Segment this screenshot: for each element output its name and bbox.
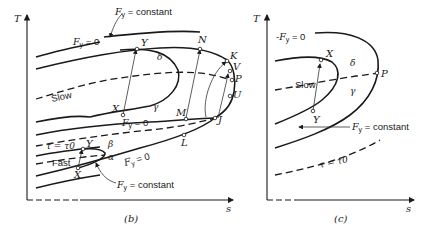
tau-label-c: τ = τ0 <box>318 154 349 170</box>
label-k: K <box>229 50 238 61</box>
slow-label-b: Slow <box>50 89 73 104</box>
region-gamma-b: γ <box>153 102 159 112</box>
label-x-small: X <box>73 169 82 180</box>
label-p-b: P <box>234 73 242 84</box>
region-delta-b: δ <box>157 52 162 62</box>
region-gamma-c: γ <box>350 86 356 96</box>
point-u <box>228 94 232 98</box>
point-p-b <box>230 78 234 82</box>
fy-const-bottom-arrow <box>96 163 116 183</box>
point-j <box>213 116 217 120</box>
label-l: L <box>180 137 188 148</box>
figure-c: T s (c) -Fy = 0 Slow X Y P δ γ Fy = cons… <box>253 13 414 224</box>
s-axis-label-c: s <box>406 203 411 214</box>
bottom-line-b <box>36 175 100 188</box>
point-y-c <box>311 109 315 113</box>
slow-label-c: Slow <box>295 79 316 90</box>
s-axis-label-b: s <box>226 203 231 214</box>
point-y-b <box>135 47 139 51</box>
point-x-c <box>319 58 323 62</box>
label-j: J <box>216 114 223 125</box>
fy-zero-top-curve <box>104 31 200 37</box>
label-x-c: X <box>325 48 334 59</box>
label-m: M <box>175 107 187 118</box>
label-n: N <box>197 34 208 45</box>
label-u: U <box>233 89 242 100</box>
region-beta: β <box>107 139 113 149</box>
tau-label-b: τ = τ0 <box>46 141 75 151</box>
point-p-c <box>375 71 379 75</box>
t-axis-label-b: T <box>14 13 22 24</box>
label-p-c: P <box>380 68 388 79</box>
fy-zero-low-label: Fy = 0 <box>122 151 152 171</box>
point-x-b <box>121 113 125 117</box>
fy-zero-label-c: -Fy = 0 <box>276 31 305 44</box>
point-k <box>225 59 229 63</box>
fy-const-bottom-label: Fy = constant <box>116 179 174 192</box>
point-n <box>198 47 202 51</box>
label-v: V <box>233 61 242 72</box>
point-y-small <box>81 147 85 151</box>
label-y-b: Y <box>141 37 149 48</box>
region-alpha: α <box>108 152 114 162</box>
fy-const-top-arrow <box>110 14 122 37</box>
label-y-c: Y <box>313 114 321 125</box>
caption-c: (c) <box>334 213 348 224</box>
caption-b: (b) <box>124 213 138 224</box>
inner-loop-left <box>36 116 90 122</box>
label-x-b: X <box>111 103 120 114</box>
fy-const-label-c: Fy = constant <box>351 121 409 134</box>
point-v <box>228 69 232 73</box>
region-delta-c: δ <box>350 58 355 68</box>
fy-zero-mid-label: Fy = 0 <box>121 117 148 130</box>
fy-const-top-label: Fy = constant <box>114 6 172 19</box>
arrow-x-y-b <box>123 50 136 115</box>
t-axis-label-c: T <box>253 13 261 24</box>
figure-b: T s (b) Fy = 0 Slow Fy = 0 τ = τ0 Fast F… <box>14 6 242 224</box>
inner-curve-c <box>275 57 338 124</box>
fast-label: Fast <box>52 157 71 168</box>
arrow-m-n <box>186 50 200 118</box>
slow-dashed-c <box>275 73 378 90</box>
arrow-l-k <box>205 62 226 117</box>
